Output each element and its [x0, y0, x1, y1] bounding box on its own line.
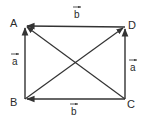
vertex-label-C: C: [127, 98, 135, 110]
vector-label-bottom-b: b: [70, 104, 78, 117]
svg-text:a: a: [12, 56, 18, 67]
svg-text:b: b: [74, 9, 80, 20]
vertex-label-A: A: [10, 17, 18, 29]
svg-text:b: b: [71, 106, 77, 117]
vector-label-left-a: a: [11, 54, 19, 67]
svg-text:a: a: [130, 62, 136, 73]
vector-label-right-a: a: [129, 60, 137, 73]
vector-rectangle-diagram: A D B C b b a a: [0, 0, 143, 121]
vector-label-top-b: b: [73, 7, 81, 20]
vertex-label-D: D: [128, 19, 136, 31]
edge-D-to-A: [27, 26, 125, 27]
diagonal-B-to-D: [25, 28, 123, 99]
vertex-label-B: B: [10, 96, 17, 108]
